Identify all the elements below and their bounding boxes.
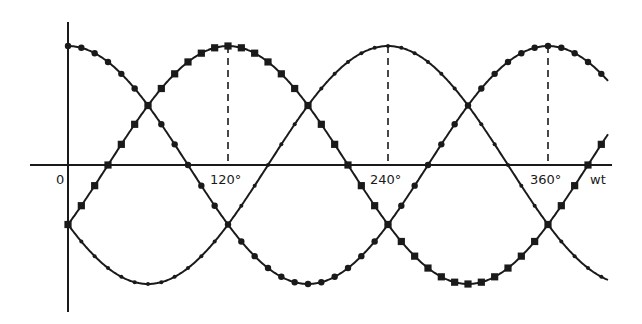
phase-b-marker (424, 264, 431, 271)
phase-c-marker (399, 46, 403, 50)
phase-b-marker (91, 182, 98, 189)
phase-b-marker (584, 161, 591, 168)
phase-b-marker (358, 182, 365, 189)
phase-a-marker (131, 85, 137, 91)
phase-a-marker (91, 50, 97, 56)
phase-c-marker (319, 87, 323, 91)
phase-a-marker (238, 238, 244, 244)
phase-a-marker (425, 162, 431, 168)
phase-c-marker (253, 184, 257, 188)
phase-b-marker (78, 202, 85, 209)
phase-b-marker (251, 50, 258, 57)
phase-b-marker (184, 58, 191, 65)
phase-c-marker (213, 239, 217, 243)
phase-a-marker (78, 45, 84, 51)
phase-a-marker (571, 50, 577, 56)
three-phase-waveform-plot: 0 120° 240° 360° wt (0, 0, 642, 324)
phase-a-marker (585, 59, 591, 65)
phase-c-marker (386, 44, 390, 48)
phase-b-marker (371, 202, 378, 209)
phase-a-marker (505, 59, 511, 65)
phase-c-marker (586, 266, 590, 270)
phase-c-marker (333, 72, 337, 76)
phase-c-marker (466, 104, 470, 108)
phase-b-marker (158, 85, 165, 92)
phase-a-marker (211, 203, 217, 209)
phase-a-marker (491, 71, 497, 77)
phase-a-marker (105, 59, 111, 65)
x-axis-label: wt (590, 172, 606, 187)
phase-b-marker (504, 264, 511, 271)
phase-c-marker (493, 142, 497, 146)
phase-a-marker (305, 281, 311, 287)
phase-b-marker (331, 141, 338, 148)
phase-b-marker (278, 70, 285, 77)
phase-a-marker (278, 274, 284, 280)
phase-b-marker (571, 182, 578, 189)
tick-label-240: 240° (370, 172, 401, 187)
phase-b-marker (491, 273, 498, 280)
phase-c-marker (413, 51, 417, 55)
phase-c-marker (79, 239, 83, 243)
phase-b-marker (411, 253, 418, 260)
phase-b-marker (131, 121, 138, 128)
phase-b-marker (118, 141, 125, 148)
phase-b-marker (291, 85, 298, 92)
phase-c-marker (439, 72, 443, 76)
phase-b-marker (598, 141, 605, 148)
origin-label: 0 (56, 172, 64, 187)
phase-a-marker (438, 141, 444, 147)
phase-a-marker (518, 50, 524, 56)
phase-c-marker (173, 275, 177, 279)
phase-c-marker (239, 204, 243, 208)
phase-b-marker (211, 44, 218, 51)
phase-c-marker (573, 254, 577, 258)
phase-b-marker (518, 253, 525, 260)
phase-c-marker (186, 266, 190, 270)
phase-a-marker (291, 279, 297, 285)
phase-a-marker (265, 265, 271, 271)
phase-c-marker (506, 163, 510, 167)
phase-b-marker (171, 70, 178, 77)
phase-c-marker (453, 87, 457, 91)
phase-b-marker (438, 273, 445, 280)
phase-c-marker (146, 282, 150, 286)
phase-a-marker (331, 274, 337, 280)
phase-b-marker (451, 279, 458, 286)
phase-a-marker (158, 121, 164, 127)
phase-c-marker (599, 275, 603, 279)
phase-c-marker (279, 142, 283, 146)
phase-c-marker (226, 223, 230, 227)
phase-c-marker (119, 275, 123, 279)
peak-dashed-lines (228, 46, 548, 165)
phase-a-marker (531, 45, 537, 51)
phase-a-marker (171, 141, 177, 147)
phase-a-marker (411, 182, 417, 188)
phase-a-marker (318, 279, 324, 285)
phase-a-marker (251, 253, 257, 259)
phase-b-marker (144, 102, 151, 109)
phase-a-marker (118, 71, 124, 77)
phase-b-marker (238, 44, 245, 51)
phase-c-marker (359, 51, 363, 55)
phase-b-marker (104, 161, 111, 168)
phase-c-marker (373, 46, 377, 50)
phase-b-marker (531, 238, 538, 245)
phase-c-marker (533, 204, 537, 208)
tick-label-360: 360° (530, 172, 561, 187)
tick-label-120: 120° (210, 172, 241, 187)
phase-b-marker (464, 280, 471, 287)
phase-a-marker (545, 43, 551, 49)
phase-b-marker (558, 202, 565, 209)
phase-a-marker (478, 85, 484, 91)
phase-a-marker (198, 182, 204, 188)
phase-b-marker (478, 279, 485, 286)
phase-b-marker (264, 58, 271, 65)
phase-b-marker (344, 161, 351, 168)
phase-c-marker (306, 104, 310, 108)
phase-c-marker (159, 280, 163, 284)
phase-c-marker (293, 122, 297, 126)
phase-a-marker (451, 121, 457, 127)
phase-c-marker (346, 60, 350, 64)
chart-canvas: 0 120° 240° 360° wt (0, 0, 642, 324)
